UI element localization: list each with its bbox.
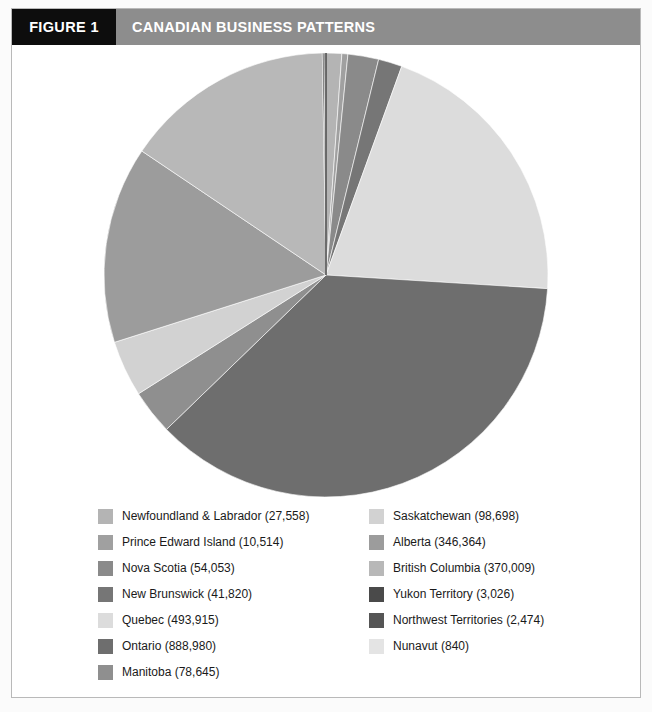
legend-item[interactable]: Ontario (888,980)	[98, 633, 369, 659]
legend-color-swatch	[369, 535, 384, 550]
figure-header: FIGURE 1 CANADIAN BUSINESS PATTERNS	[12, 9, 640, 45]
legend-item-label: Newfoundland & Labrador (27,558)	[122, 510, 309, 522]
legend-item[interactable]: New Brunswick (41,820)	[98, 581, 369, 607]
legend-color-swatch	[98, 561, 113, 576]
legend-item[interactable]: Nova Scotia (54,053)	[98, 555, 369, 581]
legend-color-swatch	[98, 535, 113, 550]
legend-item-label: Saskatchewan (98,698)	[393, 510, 519, 522]
pie-chart-svg	[91, 45, 561, 505]
legend-item-label: British Columbia (370,009)	[393, 562, 535, 574]
legend-color-swatch	[98, 509, 113, 524]
legend-item-label: Nunavut (840)	[393, 640, 469, 652]
legend-item[interactable]: Prince Edward Island (10,514)	[98, 529, 369, 555]
legend-color-swatch	[369, 613, 384, 628]
legend-item[interactable]: Saskatchewan (98,698)	[369, 503, 640, 529]
legend-color-swatch	[98, 665, 113, 680]
figure-title: CANADIAN BUSINESS PATTERNS	[116, 9, 640, 45]
legend-item-label: Manitoba (78,645)	[122, 666, 219, 678]
legend-item-label: Ontario (888,980)	[122, 640, 216, 652]
legend-color-swatch	[98, 613, 113, 628]
legend-color-swatch	[369, 639, 384, 654]
legend-item[interactable]: Alberta (346,364)	[369, 529, 640, 555]
legend-item[interactable]: Nunavut (840)	[369, 633, 640, 659]
legend-item-label: Alberta (346,364)	[393, 536, 486, 548]
legend-item-label: New Brunswick (41,820)	[122, 588, 252, 600]
legend-item-label: Quebec (493,915)	[122, 614, 219, 626]
legend-color-swatch	[369, 561, 384, 576]
legend-item[interactable]: Newfoundland & Labrador (27,558)	[98, 503, 369, 529]
legend-item[interactable]: Yukon Territory (3,026)	[369, 581, 640, 607]
legend-item[interactable]: Manitoba (78,645)	[98, 659, 369, 685]
legend-item-label: Nova Scotia (54,053)	[122, 562, 235, 574]
legend-item[interactable]: Northwest Territories (2,474)	[369, 607, 640, 633]
chart-body: Newfoundland & Labrador (27,558)Prince E…	[12, 45, 640, 697]
figure-frame: FIGURE 1 CANADIAN BUSINESS PATTERNS Newf…	[11, 8, 641, 698]
legend-color-swatch	[98, 587, 113, 602]
pie-slice-group	[104, 53, 548, 497]
legend-item-label: Yukon Territory (3,026)	[393, 588, 514, 600]
pie-chart	[12, 45, 640, 505]
legend-item-label: Northwest Territories (2,474)	[393, 614, 544, 626]
legend-item-label: Prince Edward Island (10,514)	[122, 536, 283, 548]
chart-legend: Newfoundland & Labrador (27,558)Prince E…	[12, 503, 640, 685]
legend-color-swatch	[98, 639, 113, 654]
legend-item[interactable]: Quebec (493,915)	[98, 607, 369, 633]
legend-color-swatch	[369, 587, 384, 602]
legend-column-left: Newfoundland & Labrador (27,558)Prince E…	[98, 503, 369, 685]
figure-number-label: FIGURE 1	[12, 9, 116, 45]
legend-item[interactable]: British Columbia (370,009)	[369, 555, 640, 581]
legend-color-swatch	[369, 509, 384, 524]
legend-column-right: Saskatchewan (98,698)Alberta (346,364)Br…	[369, 503, 640, 685]
